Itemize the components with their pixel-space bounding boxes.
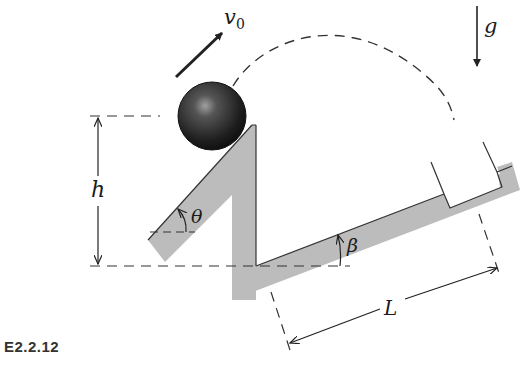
beta-label: β [346,234,358,256]
velocity-label: v0 [224,5,245,32]
projectile-diagram: v0 g h θ β L [0,0,522,372]
gravity-label: g [484,14,497,38]
height-label: h [91,177,105,202]
theta-label: θ [191,205,203,227]
ball [178,82,246,150]
figure-caption: E2.2.12 [4,338,59,355]
distance-label: L [383,296,397,320]
velocity-arrow [176,33,222,77]
trajectory-dashed-arc [233,35,454,120]
inclined-plane [232,162,520,300]
